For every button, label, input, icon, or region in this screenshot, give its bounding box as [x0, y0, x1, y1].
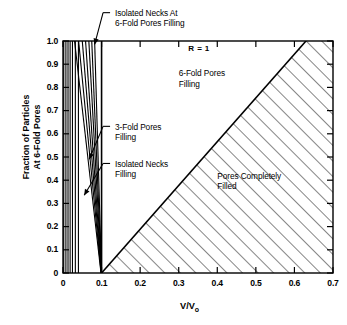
y-tick-label: 0.1 [30, 244, 58, 254]
x-tick-label: 0.2 [130, 278, 150, 288]
x-tick-label: 0.6 [284, 278, 304, 288]
x-tick-label: 0.3 [169, 278, 189, 288]
x-tick-label: 0 [53, 278, 73, 288]
y-tick-label: 0.2 [30, 221, 58, 231]
annotation-line1: R = 1 [188, 44, 209, 53]
y-axis-title-line2: At 6-Fold Pores [32, 77, 43, 197]
annotation-isolated-necks-6fold: Isolated Necks At6-Fold Pores Filling [115, 8, 184, 28]
annotation-three-fold-pores: 3-Fold PoresFilling [115, 122, 161, 142]
x-tick-label: 0.5 [246, 278, 266, 288]
annotation-line2: Filling [115, 169, 168, 179]
annotation-line2: Filling [179, 79, 225, 89]
annotation-pores-completely-filled-region: Pores CompletelyFilled [217, 171, 281, 191]
annotation-line2: 6-Fold Pores Filling [115, 18, 184, 28]
x-tick-label: 0.4 [207, 278, 227, 288]
x-axis-title: V/Vo [180, 301, 199, 313]
annotation-line1: Pores Completely [217, 171, 281, 181]
annotation-line1: 3-Fold Pores [115, 122, 161, 132]
annotation-line2: Filling [115, 132, 161, 142]
x-tick-label: 0.1 [92, 278, 112, 288]
annotation-r-equals-one: R = 1 [188, 44, 209, 53]
y-tick-label: 0 [30, 268, 58, 278]
annotation-line1: 6-Fold Pores [179, 68, 225, 78]
annotation-line1: Isolated Necks [115, 159, 168, 169]
annotation-line2: Filled [217, 181, 281, 191]
y-axis-title: Fraction of Particles At 6-Fold Pores [21, 77, 43, 197]
x-axis-title-subscript: o [195, 306, 199, 313]
annotation-isolated-necks-filling: Isolated NecksFilling [115, 159, 168, 179]
x-axis-title-main: V/V [180, 301, 195, 311]
y-tick-label: 0.9 [30, 59, 58, 69]
annotation-six-fold-pores-region: 6-Fold PoresFilling [179, 68, 225, 88]
y-tick-label: 0.3 [30, 198, 58, 208]
annotation-line1: Isolated Necks At [115, 8, 184, 18]
y-axis-title-line1: Fraction of Particles [21, 77, 32, 197]
x-tick-label: 0.7 [323, 278, 343, 288]
y-tick-label: 1.0 [30, 36, 58, 46]
chart-figure: 00.10.20.30.40.50.60.7 00.10.20.30.40.50… [0, 0, 347, 325]
